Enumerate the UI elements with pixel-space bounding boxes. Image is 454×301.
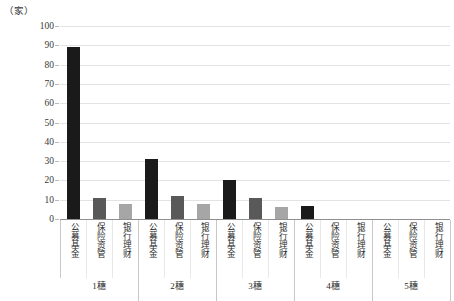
bar <box>145 159 158 219</box>
y-axis-tick-mark <box>55 219 59 220</box>
category-axis-label: 公募基金 <box>380 222 391 258</box>
category-separator <box>86 220 87 278</box>
y-axis-tick-mark <box>55 103 59 104</box>
category-axis-label: 保险资管 <box>328 222 339 258</box>
group-separator <box>450 220 451 301</box>
category-separator <box>268 220 269 278</box>
category-axis-label: 银行理财 <box>198 222 209 258</box>
bar <box>275 207 288 219</box>
y-axis-tick-label: 90 <box>0 40 54 50</box>
axis-separator <box>60 220 61 278</box>
bar <box>119 204 132 219</box>
category-axis-label: 保险资管 <box>172 222 183 258</box>
y-axis-tick-mark <box>55 45 59 46</box>
category-axis-label: 公募基金 <box>302 222 313 258</box>
group-axis-label: 2穗 <box>138 280 216 292</box>
group-axis-label: 4穗 <box>294 280 372 292</box>
y-axis-tick-label: 50 <box>0 118 54 128</box>
category-axis-label: 银行理财 <box>432 222 443 258</box>
bar <box>301 206 314 220</box>
y-axis-tick-mark <box>55 26 59 27</box>
plot-area <box>60 26 450 219</box>
y-axis-tick-label: 60 <box>0 98 54 108</box>
y-axis-tick-label: 70 <box>0 79 54 89</box>
group-axis-labels: 1穗2穗3穗4穗5穗 <box>60 276 450 301</box>
y-axis-tick-label: 20 <box>0 175 54 185</box>
category-separator <box>242 220 243 278</box>
y-axis-tick-label: 40 <box>0 137 54 147</box>
category-axis-label: 银行理财 <box>354 222 365 258</box>
y-axis-tick-mark <box>55 200 59 201</box>
bar <box>249 198 262 219</box>
group-axis-label: 3穗 <box>216 280 294 292</box>
y-axis-tick-mark <box>55 142 59 143</box>
group-axis-label: 5穗 <box>372 280 450 292</box>
y-axis-tick-mark <box>55 180 59 181</box>
category-axis-label: 银行理财 <box>120 222 131 258</box>
bar <box>223 180 236 219</box>
bar <box>93 198 106 219</box>
category-separator <box>164 220 165 278</box>
y-axis-tick-label: 100 <box>0 21 54 31</box>
category-axis-label: 公募基金 <box>146 222 157 258</box>
y-axis-tick-mark <box>55 123 59 124</box>
y-axis-tick-mark <box>55 84 59 85</box>
category-separator <box>346 220 347 278</box>
bar <box>197 204 210 219</box>
bar <box>171 196 184 219</box>
category-separator <box>398 220 399 278</box>
y-axis-tick-mark <box>55 161 59 162</box>
category-axis-label: 保险资管 <box>94 222 105 258</box>
y-axis-tick-label: 10 <box>0 195 54 205</box>
category-axis-label: 银行理财 <box>276 222 287 258</box>
y-axis-tick-label: 30 <box>0 156 54 166</box>
group-axis-label: 1穗 <box>60 280 138 292</box>
y-axis-unit-caption: （家） <box>4 6 34 17</box>
category-axis-label: 公募基金 <box>224 222 235 258</box>
bar <box>67 47 80 219</box>
category-axis-label: 公募基金 <box>68 222 79 258</box>
bar-chart: （家） 1009080706050403020100 公募基金保险资管银行理财公… <box>0 0 454 301</box>
category-separator <box>112 220 113 278</box>
category-axis-label: 保险资管 <box>406 222 417 258</box>
category-axis-label: 保险资管 <box>250 222 261 258</box>
y-axis-tick-label: 0 <box>0 214 54 224</box>
category-separator <box>320 220 321 278</box>
y-axis-tick-label: 80 <box>0 60 54 70</box>
category-axis-labels: 公募基金保险资管银行理财公募基金保险资管银行理财公募基金保险资管银行理财公募基金… <box>60 220 450 278</box>
category-separator <box>424 220 425 278</box>
bars-layer <box>60 26 450 219</box>
category-separator <box>190 220 191 278</box>
y-axis-tick-mark <box>55 65 59 66</box>
